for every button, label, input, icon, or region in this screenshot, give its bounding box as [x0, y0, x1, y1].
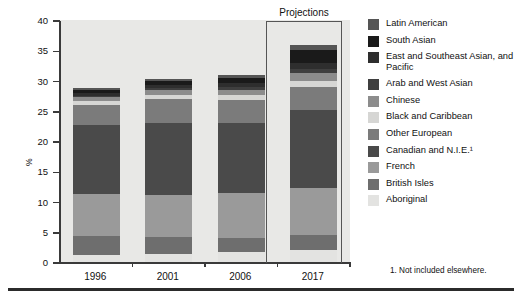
legend-item-label: Aboriginal — [386, 194, 427, 205]
bar-segment — [145, 237, 192, 254]
bar-segment — [145, 123, 192, 195]
figure-stacked-bar-chart: 4035302520151050 % 1996200120062017 Proj… — [0, 0, 522, 299]
x-tick-mark — [349, 262, 351, 267]
y-tick-mark — [53, 20, 60, 22]
y-tick-mark — [53, 111, 60, 113]
projections-box — [266, 21, 342, 263]
bar-segment — [218, 123, 265, 193]
bar-segment — [218, 100, 265, 124]
legend-item-label: Other European — [386, 128, 452, 139]
y-tick-label: 35 — [8, 46, 48, 55]
footnote: 1. Not included elsewhere. — [390, 266, 487, 275]
legend-item-label: Black and Caribbean — [386, 111, 472, 122]
bar-segment — [145, 195, 192, 237]
y-tick-label: 25 — [8, 107, 48, 116]
x-tick-label: 1996 — [60, 271, 130, 282]
legend-item-label: Canadian and N.I.E.¹ — [386, 145, 473, 156]
y-tick-label: 15 — [8, 167, 48, 176]
legend-item: Latin American — [368, 18, 518, 30]
legend-item-label: Latin American — [386, 18, 448, 29]
legend-item: Arab and West Asian — [368, 78, 518, 90]
legend-swatch-icon — [368, 146, 379, 157]
legend-swatch-icon — [368, 129, 379, 140]
legend-swatch-icon — [368, 52, 379, 63]
y-tick-label: 10 — [8, 198, 48, 207]
bottom-rule — [8, 288, 514, 291]
legend-item: Other European — [368, 128, 518, 140]
y-tick-mark — [53, 232, 60, 234]
legend-item: East and Southeast Asian, and Pacific — [368, 51, 518, 73]
projections-label: Projections — [266, 7, 342, 18]
legend-item-label: British Isles — [386, 178, 434, 189]
y-tick-mark — [53, 141, 60, 143]
x-tick-mark — [204, 262, 206, 267]
bar-segment — [73, 255, 120, 262]
legend-item: Chinese — [368, 95, 518, 107]
legend-swatch-icon — [368, 179, 379, 190]
legend-swatch-icon — [368, 36, 379, 47]
legend-item-label: Arab and West Asian — [386, 78, 473, 89]
legend-swatch-icon — [368, 112, 379, 123]
y-tick-label: 30 — [8, 77, 48, 86]
legend-swatch-icon — [368, 79, 379, 90]
legend-item: Aboriginal — [368, 194, 518, 206]
legend-swatch-icon — [368, 162, 379, 173]
legend-item: Black and Caribbean — [368, 111, 518, 123]
bar-segment — [218, 238, 265, 253]
x-tick-label: 2001 — [133, 271, 203, 282]
y-tick-label: 0 — [8, 258, 48, 267]
legend-item: South Asian — [368, 35, 518, 47]
y-tick-label: 5 — [8, 228, 48, 237]
bar-segment — [145, 99, 192, 123]
legend-swatch-icon — [368, 96, 379, 107]
legend-item-label: French — [386, 161, 415, 172]
bar-segment — [218, 252, 265, 262]
bar-1996 — [73, 88, 120, 262]
y-tick-mark — [53, 172, 60, 174]
legend-item-label: East and Southeast Asian, and Pacific — [386, 51, 518, 73]
y-tick-mark — [53, 81, 60, 83]
y-tick-label: 20 — [8, 137, 48, 146]
bar-segment — [73, 194, 120, 236]
legend-swatch-icon — [368, 19, 379, 30]
y-tick-mark — [53, 202, 60, 204]
bar-2006 — [218, 75, 265, 262]
x-tick-label: 2017 — [278, 271, 348, 282]
y-tick-label: 40 — [8, 16, 48, 25]
bar-segment — [73, 105, 120, 125]
bar-2001 — [145, 79, 192, 262]
y-axis-title: % — [24, 158, 34, 166]
legend: Latin AmericanSouth AsianEast and Southe… — [368, 18, 518, 211]
bar-segment — [218, 193, 265, 238]
legend-item: French — [368, 161, 518, 173]
legend-item: British Isles — [368, 178, 518, 190]
x-tick-label: 2006 — [205, 271, 275, 282]
y-tick-mark — [53, 51, 60, 53]
bar-segment — [73, 125, 120, 194]
x-tick-mark — [132, 262, 134, 267]
legend-item-label: Chinese — [386, 95, 420, 106]
legend-item-label: South Asian — [386, 35, 436, 46]
bar-segment — [145, 254, 192, 262]
legend-swatch-icon — [368, 195, 379, 206]
bar-segment — [73, 236, 120, 255]
legend-item: Canadian and N.I.E.¹ — [368, 145, 518, 157]
